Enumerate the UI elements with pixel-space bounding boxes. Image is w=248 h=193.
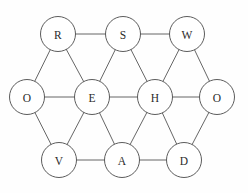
graph-node-label: O — [213, 92, 222, 104]
graph-edge — [192, 113, 209, 145]
graph-edge — [195, 50, 210, 81]
edge-layer — [35, 34, 210, 160]
graph-canvas: RSWOEHOVAD — [0, 0, 248, 193]
graph-node-label: E — [88, 92, 95, 104]
graph-edge — [67, 113, 84, 145]
graph-node: S — [106, 17, 141, 52]
graph-node: O — [10, 80, 45, 115]
graph-edge — [35, 50, 51, 82]
graph-node-label: S — [120, 29, 127, 41]
graph-node-label: A — [118, 155, 127, 167]
graph-node-label: H — [151, 92, 160, 104]
graph-edge — [131, 50, 147, 82]
graph-node: D — [167, 143, 202, 178]
graph-node-label: V — [55, 155, 64, 167]
graph-node: W — [170, 17, 205, 52]
graph-edge — [130, 113, 147, 145]
graph-edge — [100, 113, 115, 144]
graph-edge — [100, 50, 116, 82]
graph-node-label: W — [181, 29, 192, 41]
graph-diagram: RSWOEHOVAD — [0, 0, 248, 193]
graph-node-label: R — [54, 29, 62, 41]
graph-node-label: O — [23, 92, 32, 104]
graph-node: R — [41, 17, 76, 52]
graph-node: A — [105, 143, 140, 178]
graph-node: E — [75, 80, 110, 115]
graph-edge — [35, 113, 51, 145]
graph-node: O — [200, 80, 235, 115]
graph-edge — [66, 49, 83, 81]
graph-node: H — [138, 80, 173, 115]
graph-edge — [163, 50, 179, 82]
graph-node-label: D — [180, 155, 189, 167]
graph-edge — [162, 113, 176, 144]
graph-node: V — [42, 143, 77, 178]
